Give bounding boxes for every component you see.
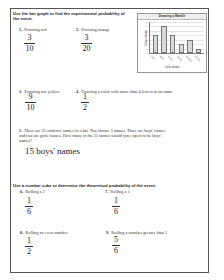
numerator: 1	[112, 197, 120, 205]
y-tick: 5	[146, 30, 147, 33]
part1-instruction: Use the bar graph to find the experiment…	[13, 11, 128, 21]
answer-fraction-6: 1 6	[25, 197, 33, 216]
numerator: 9	[25, 93, 36, 101]
answer-fraction-1: 3 10	[24, 34, 35, 53]
bar-blue	[153, 35, 158, 53]
part2-instruction: Use a number cube to determine the theor…	[13, 183, 203, 188]
gridline	[150, 35, 204, 36]
question-number: 3.	[19, 89, 22, 94]
bar-purple	[196, 49, 201, 53]
denominator: 6	[112, 247, 120, 255]
answer-5: 15 boys' names	[25, 146, 80, 156]
bar-chart: Drawing a Marble Times drawn 7 6 5 4 3 2…	[137, 13, 207, 73]
question-text: Drawing a color with more than 4 letters…	[81, 89, 173, 94]
question-2: 2.Drawing orange	[76, 27, 110, 32]
question-5: 5.There are 25 students' names in a hat.…	[19, 128, 169, 144]
question-number: 7.	[105, 189, 108, 194]
numerator: 1	[25, 237, 33, 245]
y-tick: 3	[146, 39, 147, 42]
bar-yellow	[179, 44, 184, 53]
question-text: Drawing orange	[81, 27, 109, 32]
question-7: 7.Rolling a 5	[105, 189, 130, 194]
x-tick-label: Orange	[185, 55, 193, 63]
gridline	[150, 44, 204, 45]
bar-orange	[187, 40, 192, 53]
question-number: 4.	[76, 89, 79, 94]
chart-plot-area: 7 6 5 4 3 2 1 0	[149, 22, 204, 54]
answer-fraction-3: 9 10	[25, 93, 36, 112]
x-tick-label: Green	[167, 55, 174, 62]
question-8: 8.Rolling an even number	[20, 230, 68, 235]
gridline	[150, 22, 204, 23]
gridline	[150, 40, 204, 41]
answer-fraction-2: 3 20	[81, 34, 92, 53]
question-number: 2.	[76, 27, 79, 32]
question-number: 1.	[19, 27, 22, 32]
question-text: Rolling a 2	[25, 189, 45, 194]
gridline	[150, 31, 204, 32]
x-tick-label: Yellow	[176, 55, 183, 62]
numerator: 5	[112, 236, 120, 244]
question-4: 4.Drawing a color with more than 4 lette…	[76, 89, 173, 94]
numerator: 3	[24, 34, 35, 42]
question-text: Rolling an even number	[25, 230, 67, 235]
x-tick-label: Blue	[150, 55, 156, 61]
y-tick: 0	[146, 52, 147, 55]
denominator: 2	[81, 104, 89, 112]
denominator: 6	[25, 208, 33, 216]
chart-x-axis-label: Color drawn	[138, 65, 206, 69]
question-number: 6.	[20, 189, 23, 194]
numerator: 1	[81, 93, 89, 101]
y-tick: 6	[146, 25, 147, 28]
question-text: There are 25 students' names in a hat. Y…	[19, 128, 165, 143]
x-tick-label: Purple	[193, 55, 200, 62]
denominator: 10	[25, 104, 36, 112]
y-tick: 1	[146, 48, 147, 51]
chart-title: Drawing a Marble	[138, 14, 206, 20]
question-6: 6.Rolling a 2	[20, 189, 45, 194]
answer-fraction-9: 5 6	[112, 236, 120, 255]
y-tick: 4	[146, 34, 147, 37]
denominator: 20	[81, 45, 92, 53]
x-tick-label: Red	[159, 55, 164, 60]
answer-fraction-7: 1 6	[112, 197, 120, 216]
question-text: Rolling a 5	[110, 189, 130, 194]
bar-green	[170, 35, 175, 53]
question-text: Rolling a number greater than 1	[111, 230, 167, 235]
answer-fraction-4: 1 2	[81, 93, 89, 112]
answer-fraction-8: 1 2	[25, 237, 33, 256]
question-number: 8.	[20, 230, 23, 235]
y-tick: 7	[146, 21, 147, 24]
gridline	[150, 26, 204, 27]
question-text: Drawing red	[24, 27, 46, 32]
bar-red	[161, 26, 166, 53]
denominator: 6	[112, 208, 120, 216]
numerator: 1	[25, 197, 33, 205]
y-tick: 2	[146, 43, 147, 46]
denominator: 10	[24, 45, 35, 53]
question-1: 1.Drawing red	[19, 27, 46, 32]
denominator: 2	[25, 248, 33, 256]
question-number: 9.	[106, 230, 109, 235]
numerator: 3	[81, 34, 92, 42]
